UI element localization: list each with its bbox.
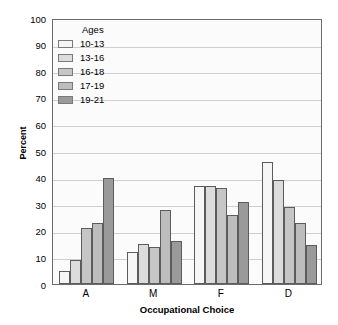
x-tick-label: M — [133, 288, 173, 299]
bar — [227, 215, 238, 284]
x-tick-label: A — [66, 288, 106, 299]
bar — [138, 244, 149, 284]
bar-cluster-d — [262, 20, 317, 284]
legend-entries: 10-1313-1616-1817-1919-21 — [58, 37, 144, 107]
legend-item: 10-13 — [58, 37, 144, 51]
legend-item: 17-19 — [58, 79, 144, 93]
bar — [59, 271, 70, 284]
y-tick-label: 100 — [12, 15, 46, 24]
y-tick-label: 10 — [12, 254, 46, 263]
y-tick-label: 0 — [12, 281, 46, 290]
bar — [194, 186, 205, 284]
legend-swatch — [58, 54, 73, 62]
legend-label: 16-18 — [80, 67, 104, 77]
bar — [103, 178, 114, 284]
legend-item: 19-21 — [58, 93, 144, 107]
bar-chart-figure: Percent 0102030405060708090100 Ages 10-1… — [0, 0, 338, 325]
bar — [306, 245, 317, 284]
y-tick-label: 50 — [12, 148, 46, 157]
bar — [216, 188, 227, 284]
bar — [262, 162, 273, 284]
x-axis-title: Occupational Choice — [52, 304, 322, 315]
y-tick-label: 70 — [12, 94, 46, 103]
bar — [273, 180, 284, 284]
bar-cluster-f — [194, 20, 249, 284]
legend-swatch — [58, 40, 73, 48]
legend-swatch — [58, 82, 73, 90]
bar — [205, 186, 216, 284]
bar — [81, 228, 92, 284]
bar — [171, 241, 182, 284]
y-tick-label: 80 — [12, 68, 46, 77]
y-tick-label: 30 — [12, 201, 46, 210]
legend-title: Ages — [82, 24, 144, 35]
bar — [70, 260, 81, 284]
y-axis-tick-labels: 0102030405060708090100 — [12, 19, 46, 285]
bar — [160, 210, 171, 284]
bar — [284, 207, 295, 284]
x-axis-tick-labels: AMFD — [52, 288, 322, 302]
bar — [127, 252, 138, 284]
bar — [149, 247, 160, 284]
y-tick-label: 90 — [12, 41, 46, 50]
y-tick-label: 60 — [12, 121, 46, 130]
legend-label: 13-16 — [80, 53, 104, 63]
legend-item: 16-18 — [58, 65, 144, 79]
bar — [238, 202, 249, 284]
bar — [295, 223, 306, 284]
bar — [92, 223, 103, 284]
y-tick-label: 40 — [12, 174, 46, 183]
legend-item: 13-16 — [58, 51, 144, 65]
legend-label: 17-19 — [80, 81, 104, 91]
y-tick-label: 20 — [12, 227, 46, 236]
x-tick-label: D — [268, 288, 308, 299]
legend-label: 10-13 — [80, 39, 104, 49]
legend: Ages 10-1313-1616-1817-1919-21 — [58, 24, 144, 107]
legend-swatch — [58, 96, 73, 104]
x-tick-label: F — [201, 288, 241, 299]
legend-swatch — [58, 68, 73, 76]
legend-label: 19-21 — [80, 95, 104, 105]
